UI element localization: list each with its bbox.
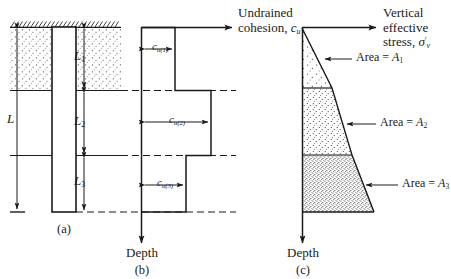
panel-a-graphics: [10, 22, 236, 213]
label-area-3: Area = A3: [402, 177, 449, 191]
panel-c-x-axis-title: Vertical effective stress, σ′v: [383, 6, 430, 50]
panel-b-graphics: [141, 27, 232, 243]
panel-b-x-axis-title: Undrained cohesion, cu: [238, 6, 301, 36]
label-cu2: cu(2): [160, 113, 194, 127]
panel-b-caption: (b): [122, 263, 162, 277]
label-area-1: Area = A1: [356, 51, 403, 65]
soil-layer-1-left: [10, 28, 52, 90]
panel-c-caption: (c): [283, 263, 323, 277]
label-cu1: cu(1): [146, 40, 174, 54]
stress-area-2-fill: [302, 88, 352, 155]
label-L2: L2: [74, 114, 85, 129]
label-area-2: Area = A2: [380, 116, 427, 130]
panel-b-y-axis-title: Depth: [120, 246, 164, 261]
figure-root: L L1 L2 L3 (a) cu(1) cu(2) cu(3) Undrain…: [0, 0, 451, 279]
label-cu3: cu(3): [150, 176, 180, 190]
panel-c-y-axis-title: Depth: [281, 246, 325, 261]
label-L1: L1: [74, 49, 85, 64]
label-total-length-L: L: [7, 112, 14, 127]
panel-a-caption: (a): [44, 222, 84, 236]
pile-body: [52, 27, 76, 212]
label-L3: L3: [74, 174, 85, 189]
